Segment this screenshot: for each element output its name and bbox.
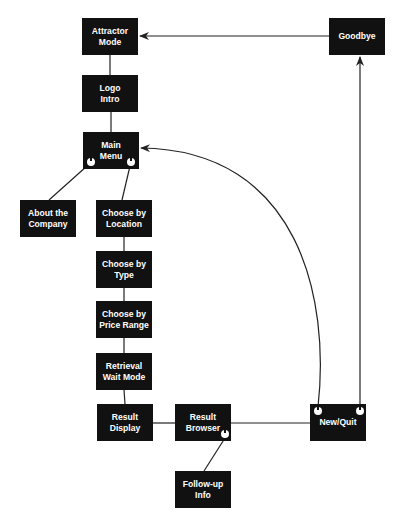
node-logo-intro[interactable]: Logo Intro [82, 75, 138, 112]
node-label: Result Browser [186, 412, 220, 433]
node-goodbye[interactable]: Goodbye [329, 18, 385, 55]
node-label: Attractor Mode [92, 26, 128, 47]
connector-lines [0, 0, 399, 525]
node-label: Retrieval Wait Mode [103, 361, 146, 382]
node-label: Goodbye [338, 31, 375, 42]
node-choose-location[interactable]: Choose by Location [96, 200, 152, 237]
node-retrieval-wait[interactable]: Retrieval Wait Mode [96, 353, 152, 390]
node-result-display[interactable]: Result Display [97, 404, 153, 441]
node-attractor-mode[interactable]: Attractor Mode [82, 18, 138, 55]
node-main-menu[interactable]: Main Menu [83, 132, 139, 169]
node-label: Choose by Type [102, 259, 146, 280]
node-label: Result Display [110, 412, 141, 433]
node-label: Main Menu [100, 140, 122, 161]
node-about-company[interactable]: About the Company [20, 200, 76, 237]
node-label: Choose by Price Range [99, 309, 149, 330]
node-label: Choose by Location [102, 208, 146, 229]
node-new-quit[interactable]: New/Quit [310, 404, 366, 441]
connector-knob-icon [127, 158, 135, 166]
node-follow-up-info[interactable]: Follow-up Info [175, 471, 231, 508]
connector-knob-icon [314, 407, 322, 415]
node-label: Follow-up Info [183, 479, 224, 500]
node-label: Logo Intro [100, 83, 121, 104]
node-label: About the Company [28, 208, 68, 229]
node-label: New/Quit [319, 417, 356, 428]
node-choose-type[interactable]: Choose by Type [96, 251, 152, 288]
node-choose-price[interactable]: Choose by Price Range [96, 301, 152, 338]
connector-knob-icon [221, 430, 229, 438]
node-result-browser[interactable]: Result Browser [175, 404, 231, 441]
connector-knob-icon [87, 158, 95, 166]
connector-knob-icon [356, 407, 364, 415]
